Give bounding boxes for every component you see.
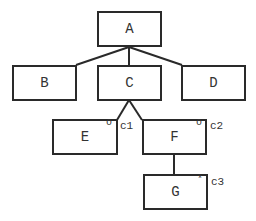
node-d-label: D [209,75,217,91]
node-e-annotation: c1 [120,120,133,132]
node-b: B [12,65,77,101]
edge-a-b [76,47,129,65]
edge-c-f [129,100,142,120]
node-e-label: E [81,129,89,145]
node-a-label: A [125,21,133,37]
node-f-marker: o [196,117,202,128]
node-f-label: F [170,129,178,145]
edge-a-d [129,47,182,65]
node-c-label: C [125,75,133,91]
node-g-marker: * [197,174,203,185]
node-b-label: B [40,75,48,91]
node-e-marker: o [106,117,112,128]
node-g-annotation: c3 [211,176,224,188]
node-d: D [181,65,246,101]
node-c: C [97,65,162,101]
node-a: A [97,11,162,47]
node-f-annotation: c2 [210,120,223,132]
node-g-label: G [171,184,179,200]
edge-c-e [117,100,129,120]
